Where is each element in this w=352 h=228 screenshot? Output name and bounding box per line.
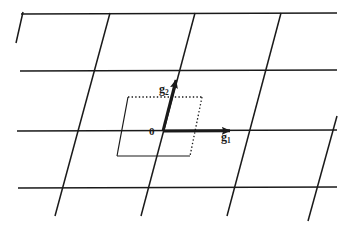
unit-cell-right-edge bbox=[190, 97, 202, 156]
lattice-column-line-1 bbox=[16, 12, 23, 43]
vector-g2-label: g2 bbox=[159, 83, 169, 95]
lattice-row-line-2 bbox=[20, 70, 337, 71]
primitive-vectors-group bbox=[163, 80, 230, 131]
lattice-rows-group bbox=[17, 13, 337, 188]
vector-g2-label-subscript: 2 bbox=[165, 88, 169, 97]
lattice-figure: g2 g1 0 bbox=[0, 0, 352, 228]
vector-g1-label-subscript: 1 bbox=[227, 136, 231, 145]
lattice-column-line-2 bbox=[55, 13, 110, 216]
vector-g1-label: g1 bbox=[221, 131, 231, 143]
lattice-columns-group bbox=[16, 12, 337, 221]
lattice-column-line-5 bbox=[308, 116, 337, 221]
lattice-diagram-svg bbox=[0, 0, 352, 228]
lattice-column-line-4 bbox=[227, 13, 281, 216]
lattice-row-line-4 bbox=[18, 187, 337, 188]
origin-label: 0 bbox=[149, 126, 155, 137]
unit-cell-left-edge bbox=[117, 97, 128, 156]
lattice-row-line-1 bbox=[21, 13, 337, 14]
